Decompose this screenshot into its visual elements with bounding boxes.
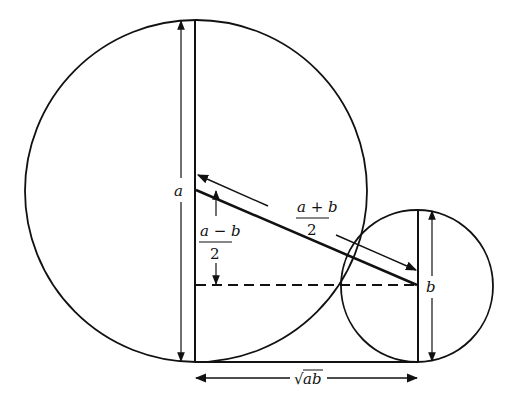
svg-text:ab: ab <box>303 370 322 388</box>
label-a: a <box>174 182 183 200</box>
label-diff-half: a − b 2 <box>199 222 241 263</box>
svg-text:2: 2 <box>210 245 220 263</box>
label-b: b <box>426 278 436 296</box>
svg-text:a − b: a − b <box>200 222 241 240</box>
label-sum-half: a + b 2 <box>296 198 338 239</box>
label-sqrt-ab: √ ab <box>294 370 323 388</box>
svg-text:a + b: a + b <box>297 198 338 216</box>
svg-text:2: 2 <box>307 221 317 239</box>
sum-dimension-arrow-left <box>198 175 268 206</box>
am-gm-diagram: a b a + b 2 a − b 2 √ ab <box>0 0 517 405</box>
